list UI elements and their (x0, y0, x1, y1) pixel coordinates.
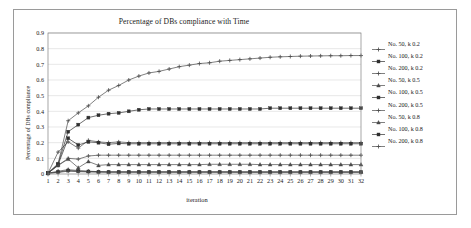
x-tick-label: 4 (77, 177, 80, 184)
x-tick-label: 31 (348, 177, 354, 184)
x-tick-label: 30 (338, 177, 344, 184)
legend-label: No. 200, k 0.5 (388, 101, 423, 110)
legend-item[interactable]: No. 100, k 0.2 (371, 50, 457, 62)
gridlines (48, 33, 361, 158)
x-tick-label: 3 (67, 177, 70, 184)
x-tick-label: 15 (186, 177, 192, 184)
x-tick-label: 9 (127, 177, 130, 184)
legend-item[interactable]: No. 50, k 0.2 (371, 38, 457, 50)
x-tick-label: 14 (176, 177, 182, 184)
legend-item[interactable]: No. 50, k 0.5 (371, 75, 457, 87)
x-tick-label: 20 (237, 177, 243, 184)
legend-item[interactable]: No. 50, k 0.8 (371, 111, 457, 123)
legend-marker-icon (371, 137, 386, 146)
y-tick-label: 0.6 (36, 76, 44, 83)
data-series (46, 54, 363, 176)
x-tick-label: 17 (206, 177, 212, 184)
x-axis-ticks: 1234567891011121314151617181920212223242… (46, 177, 364, 184)
legend-label: No. 50, k 0.8 (388, 113, 420, 122)
x-tick-label: 1 (46, 177, 49, 184)
x-tick-label: 5 (87, 177, 90, 184)
legend-item[interactable]: No. 100, k 0.5 (371, 87, 457, 99)
y-tick-label: 0.7 (36, 61, 44, 68)
legend-item[interactable]: No. 200, k 0.8 (371, 136, 457, 148)
legend-marker-icon (371, 64, 386, 73)
legend-label: No. 200, k 0.8 (388, 137, 423, 146)
legend-label: No. 200, k 0.2 (388, 64, 423, 73)
x-tick-label: 22 (257, 177, 263, 184)
legend-label: No. 100, k 0.2 (388, 52, 423, 61)
legend-marker-icon (371, 40, 386, 49)
x-tick-label: 12 (156, 177, 162, 184)
x-tick-label: 29 (328, 177, 334, 184)
legend-marker-icon (371, 113, 386, 122)
x-tick-label: 6 (97, 177, 100, 184)
x-tick-label: 7 (107, 177, 110, 184)
legend-marker-icon (371, 76, 386, 85)
legend-marker-icon (371, 125, 386, 134)
legend-label: No. 50, k 0.2 (388, 40, 420, 49)
y-tick-label: 0.9 (36, 29, 44, 36)
y-tick-label: 0.8 (36, 45, 44, 52)
x-tick-label: 32 (358, 177, 364, 184)
y-tick-label: 0.1 (36, 155, 44, 162)
y-tick-label: 0.2 (36, 139, 44, 146)
x-tick-label: 13 (166, 177, 172, 184)
legend-item[interactable]: No. 100, k 0.8 (371, 123, 457, 135)
x-tick-label: 19 (227, 177, 233, 184)
y-tick-label: 0.4 (36, 108, 44, 115)
chart-legend: No. 50, k 0.2No. 100, k 0.2No. 200, k 0.… (371, 38, 457, 148)
x-tick-label: 10 (136, 177, 142, 184)
x-tick-label: 28 (318, 177, 324, 184)
legend-item[interactable]: No. 200, k 0.5 (371, 99, 457, 111)
x-tick-label: 23 (267, 177, 273, 184)
legend-marker-icon (371, 88, 386, 97)
y-tick-label: 0 (41, 170, 44, 177)
x-tick-label: 18 (217, 177, 223, 184)
legend-marker-icon (371, 101, 386, 110)
chart-figure-frame: Percentage of DBs compliance with Time P… (13, 9, 457, 215)
x-tick-label: 2 (57, 177, 60, 184)
legend-item[interactable]: No. 200, k 0.2 (371, 62, 457, 74)
y-tick-label: 0.3 (36, 123, 44, 130)
x-tick-label: 11 (146, 177, 152, 184)
x-tick-label: 24 (277, 177, 283, 184)
x-tick-label: 27 (307, 177, 313, 184)
x-tick-label: 16 (196, 177, 202, 184)
x-tick-label: 26 (297, 177, 303, 184)
legend-label: No. 100, k 0.8 (388, 125, 423, 134)
legend-marker-icon (371, 52, 386, 61)
y-tick-label: 0.5 (36, 92, 44, 99)
x-tick-label: 21 (247, 177, 253, 184)
x-tick-label: 8 (117, 177, 120, 184)
x-tick-label: 25 (287, 177, 293, 184)
legend-label: No. 50, k 0.5 (388, 76, 420, 85)
data-series-layer (46, 54, 363, 176)
legend-label: No. 100, k 0.5 (388, 88, 423, 97)
y-axis-ticks: 0.90.80.70.60.50.40.30.20.10 (36, 29, 44, 177)
